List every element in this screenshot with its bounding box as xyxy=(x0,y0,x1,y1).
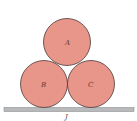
label-floor: J xyxy=(63,113,69,121)
label-a: A xyxy=(64,39,70,47)
label-b: B xyxy=(40,81,46,89)
diagram: A B C J xyxy=(0,0,137,121)
label-c: C xyxy=(88,81,94,89)
floor xyxy=(4,108,134,112)
